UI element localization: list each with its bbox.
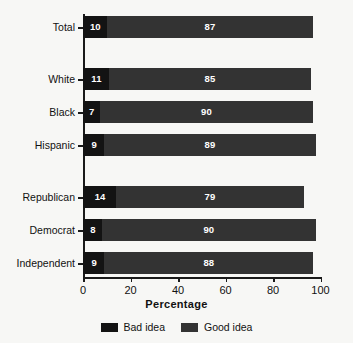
x-axis-tick-label-40: 40: [172, 284, 184, 296]
bar-row[interactable]: 790: [83, 101, 313, 123]
bar-value-bad-idea: 11: [90, 74, 101, 84]
chart-legend: Bad idea Good idea: [0, 321, 353, 333]
x-axis-tick: [178, 277, 180, 282]
y-axis-tick: [78, 79, 83, 81]
bar-value-bad-idea: 7: [88, 107, 94, 117]
bar-segment-good-idea[interactable]: 89: [104, 134, 315, 156]
x-axis-tick-label-20: 20: [124, 284, 136, 296]
y-axis-tick: [78, 197, 83, 199]
bar-segment-good-idea[interactable]: 87: [107, 16, 314, 38]
x-axis-tick-label-60: 60: [219, 284, 231, 296]
y-axis-label-total: Total: [5, 21, 75, 33]
y-axis-tick: [78, 263, 83, 265]
bar-row[interactable]: 1479: [83, 186, 304, 208]
legend-item-bad-idea[interactable]: Bad idea: [101, 321, 165, 333]
bar-value-bad-idea: 10: [89, 22, 101, 32]
bar-segment-bad-idea[interactable]: 9: [83, 252, 104, 274]
x-axis-title: Percentage: [0, 298, 353, 310]
x-axis-tick: [226, 277, 228, 282]
legend-label-bad-idea: Bad idea: [124, 321, 165, 333]
bar-row[interactable]: 1185: [83, 68, 311, 90]
bar-value-good-idea: 79: [205, 192, 216, 202]
bar-row[interactable]: 989: [83, 134, 316, 156]
x-axis-tick-label-0: 0: [80, 284, 86, 296]
legend-item-good-idea[interactable]: Good idea: [181, 321, 252, 333]
x-axis-tick-label-100: 100: [311, 284, 329, 296]
x-axis-tick-label-80: 80: [267, 284, 279, 296]
bar-segment-good-idea[interactable]: 85: [109, 68, 311, 90]
bar-value-good-idea: 90: [201, 107, 212, 117]
legend-swatch-good-idea: [181, 323, 198, 332]
x-axis-tick: [131, 277, 133, 282]
y-axis-label-independent: Independent: [5, 257, 75, 269]
stacked-bar-chart: 1087Total1185White790Black989Hispanic147…: [0, 0, 353, 343]
bar-segment-bad-idea[interactable]: 9: [83, 134, 104, 156]
bar-value-good-idea: 87: [205, 22, 216, 32]
bar-segment-good-idea[interactable]: 79: [116, 186, 304, 208]
y-axis-label-hispanic: Hispanic: [5, 139, 75, 151]
bar-segment-good-idea[interactable]: 90: [102, 219, 316, 241]
bar-value-good-idea: 89: [205, 140, 216, 150]
y-axis-label-white: White: [5, 73, 75, 85]
bar-segment-bad-idea[interactable]: 8: [83, 219, 102, 241]
bar-row[interactable]: 890: [83, 219, 316, 241]
bar-segment-bad-idea[interactable]: 7: [83, 101, 100, 123]
y-axis-label-republican: Republican: [5, 191, 75, 203]
legend-swatch-bad-idea: [101, 323, 118, 332]
y-axis-tick: [78, 112, 83, 114]
bar-value-bad-idea: 14: [94, 192, 106, 202]
bar-value-bad-idea: 9: [90, 258, 96, 268]
legend-label-good-idea: Good idea: [204, 321, 252, 333]
bar-segment-good-idea[interactable]: 88: [104, 252, 313, 274]
y-axis-tick: [78, 145, 83, 147]
y-axis-label-black: Black: [5, 106, 75, 118]
bar-value-bad-idea: 8: [89, 225, 95, 235]
x-axis-tick: [83, 277, 85, 282]
bar-value-bad-idea: 9: [90, 140, 96, 150]
bar-row[interactable]: 1087: [83, 16, 313, 38]
bar-value-good-idea: 90: [203, 225, 214, 235]
y-axis-label-democrat: Democrat: [5, 224, 75, 236]
bar-segment-bad-idea[interactable]: 14: [83, 186, 116, 208]
bar-segment-good-idea[interactable]: 90: [100, 101, 314, 123]
y-axis-tick: [78, 27, 83, 29]
bar-segment-bad-idea[interactable]: 11: [83, 68, 109, 90]
bar-value-good-idea: 88: [203, 258, 214, 268]
bar-row[interactable]: 988: [83, 252, 313, 274]
y-axis-tick: [78, 230, 83, 232]
x-axis-tick: [273, 277, 275, 282]
bar-segment-bad-idea[interactable]: 10: [83, 16, 107, 38]
x-axis-line: [83, 277, 322, 279]
bar-value-good-idea: 85: [205, 74, 216, 84]
x-axis-tick: [321, 277, 323, 282]
